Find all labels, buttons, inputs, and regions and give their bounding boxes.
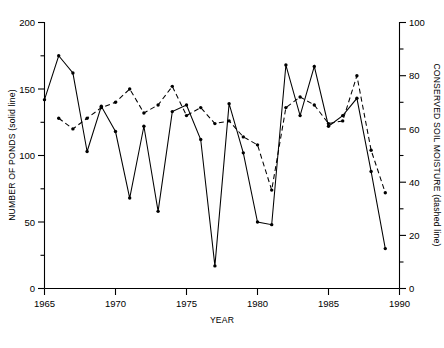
x-tick-label: 1990 — [389, 298, 410, 309]
y-right-tick-label: 40 — [409, 177, 420, 188]
series-line-soil-moisture — [59, 76, 386, 193]
x-tick-label: 1985 — [318, 298, 339, 309]
data-point-marker — [142, 111, 145, 114]
y-left-tick-label: 100 — [19, 150, 35, 161]
x-tick-label: 1965 — [34, 298, 55, 309]
data-point-marker — [142, 125, 145, 128]
data-point-marker — [284, 106, 287, 109]
y-left-tick-label: 50 — [24, 217, 35, 228]
data-point-marker — [369, 170, 372, 173]
data-point-marker — [270, 223, 273, 226]
data-point-marker — [57, 54, 60, 57]
data-point-marker — [43, 98, 46, 101]
data-point-marker — [384, 191, 387, 194]
data-point-marker — [242, 135, 245, 138]
data-point-marker — [128, 196, 131, 199]
x-ticks — [45, 289, 400, 296]
data-point-marker — [313, 103, 316, 106]
data-point-marker — [85, 117, 88, 120]
y-left-tick-label: 0 — [30, 283, 35, 294]
data-point-marker — [156, 210, 159, 213]
x-tick-label: 1975 — [176, 298, 197, 309]
y-left-ticks — [38, 23, 45, 289]
chart-figure: 200 150 100 50 0 100 80 60 40 20 — [0, 0, 444, 348]
y-right-tick-label: 60 — [409, 124, 420, 135]
x-tick-labels: 1965 1970 1975 1980 1985 1990 — [34, 298, 410, 309]
data-point-marker — [341, 119, 344, 122]
data-point-marker — [114, 101, 117, 104]
data-point-marker — [185, 103, 188, 106]
data-point-marker — [355, 74, 358, 77]
data-point-marker — [71, 71, 74, 74]
data-point-marker — [128, 87, 131, 90]
x-tick-label: 1980 — [247, 298, 268, 309]
line-chart-canvas: 200 150 100 50 0 100 80 60 40 20 — [0, 0, 444, 348]
data-point-marker — [227, 119, 230, 122]
data-point-marker — [156, 103, 159, 106]
data-point-marker — [355, 97, 358, 100]
y-right-ticks — [400, 23, 407, 289]
data-point-marker — [242, 151, 245, 154]
data-point-marker — [199, 106, 202, 109]
data-point-marker — [384, 247, 387, 250]
data-point-marker — [171, 85, 174, 88]
data-point-marker — [114, 130, 117, 133]
y-left-tick-label: 200 — [19, 17, 35, 28]
x-tick-label: 1970 — [105, 298, 126, 309]
data-point-marker — [85, 150, 88, 153]
y-right-axis-title: CONSERVED SOIL MOISTURE (dashed line) — [432, 63, 442, 246]
data-point-marker — [185, 114, 188, 117]
data-point-marker — [256, 143, 259, 146]
data-point-marker — [171, 110, 174, 113]
x-axis-title: YEAR — [210, 315, 234, 325]
y-right-tick-label: 100 — [409, 17, 425, 28]
data-point-marker — [327, 122, 330, 125]
data-point-marker — [213, 264, 216, 267]
data-point-marker — [284, 63, 287, 66]
series-layer — [43, 54, 387, 268]
y-right-tick-label: 80 — [409, 70, 420, 81]
data-point-marker — [313, 65, 316, 68]
data-point-marker — [256, 220, 259, 223]
data-point-marker — [369, 148, 372, 151]
data-point-marker — [227, 102, 230, 105]
data-point-marker — [57, 117, 60, 120]
data-point-marker — [199, 138, 202, 141]
y-right-tick-labels: 100 80 60 40 20 0 — [409, 17, 425, 294]
series-line-ponds — [45, 56, 386, 266]
y-left-tick-label: 150 — [19, 84, 35, 95]
data-point-marker — [270, 188, 273, 191]
y-right-tick-label: 0 — [409, 283, 414, 294]
data-point-marker — [298, 95, 301, 98]
y-left-axis-title: NUMBER OF PONDS (solid line) — [7, 89, 17, 221]
data-point-marker — [100, 106, 103, 109]
data-point-marker — [298, 114, 301, 117]
y-right-tick-label: 20 — [409, 230, 420, 241]
data-point-marker — [213, 122, 216, 125]
data-point-marker — [71, 127, 74, 130]
y-left-tick-labels: 200 150 100 50 0 — [19, 17, 35, 294]
